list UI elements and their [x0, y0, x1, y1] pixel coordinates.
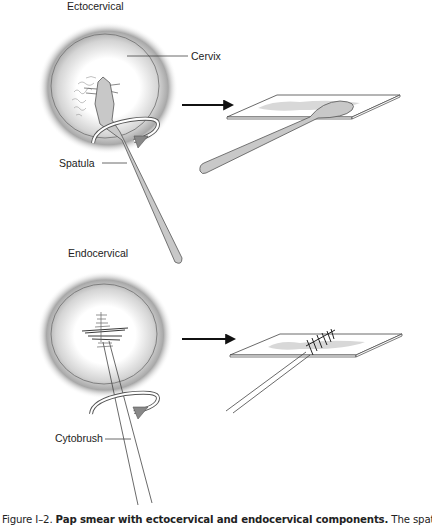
caption-figure-number: Figure I–2.: [2, 514, 53, 525]
label-spatula: Spatula: [59, 157, 95, 169]
caption-text: The spatula is used to sample: [391, 514, 432, 525]
label-cervix: Cervix: [191, 50, 221, 62]
section-title-ectocervical: Ectocervical: [67, 0, 124, 12]
section-title-endocervical: Endocervical: [68, 247, 128, 259]
cervix-endocervical: [37, 271, 173, 399]
label-cytobrush: Cytobrush: [55, 432, 103, 444]
figure-caption: Figure I–2. Pap smear with ectocervical …: [2, 514, 432, 525]
caption-title: Pap smear with ectocervical and endocerv…: [56, 514, 389, 525]
glass-slide-endocervical: [230, 334, 402, 357]
